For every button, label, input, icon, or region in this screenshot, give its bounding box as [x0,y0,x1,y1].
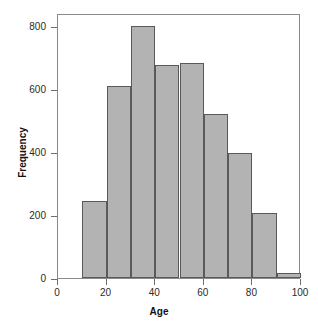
x-axis-tick-label: 100 [280,288,318,298]
x-axis-tick-label: 20 [86,288,126,298]
x-axis-tick [203,279,204,285]
y-axis-tick-label: 0 [0,274,46,284]
y-axis-tick-label: 800 [0,22,46,32]
x-axis-tick [154,279,155,285]
histogram-chart: Frequency 0200400600800 020406080100 Age [0,0,318,330]
x-axis-tick-label: 0 [37,288,77,298]
x-axis-tick [106,279,107,285]
x-axis-tick [300,279,301,285]
histogram-bar [277,273,301,278]
histogram-bar [107,86,131,278]
x-axis-tick [251,279,252,285]
histogram-bar [155,65,179,278]
histogram-bar [228,153,252,278]
histogram-bar [131,26,155,278]
bars-layer [58,15,299,278]
histogram-bar [82,201,106,278]
histogram-bar [252,213,276,278]
histogram-bar [180,63,204,278]
y-axis-tick-label: 200 [0,211,46,221]
x-axis-tick-label: 60 [183,288,223,298]
plot-area [57,14,300,279]
x-axis-tick-label: 40 [134,288,174,298]
y-axis-tick-label: 600 [0,85,46,95]
x-axis-tick [57,279,58,285]
histogram-bar [204,114,228,278]
y-axis-tick-label: 400 [0,148,46,158]
x-axis-tick-label: 80 [231,288,271,298]
x-axis-title: Age [0,306,318,317]
